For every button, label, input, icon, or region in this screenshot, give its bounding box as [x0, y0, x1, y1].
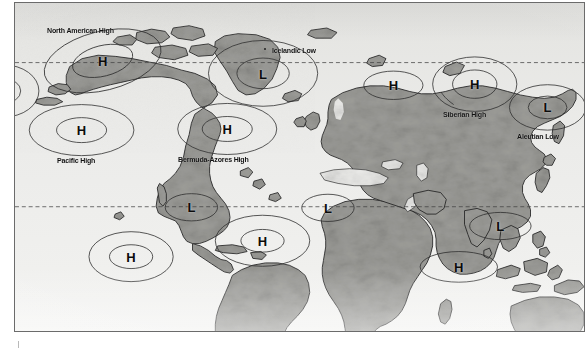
pressure-glyph-pacific-high: H: [77, 123, 86, 138]
pressure-glyph-african-low: L: [324, 200, 332, 215]
label-aleutian-low: Aleutian Low: [517, 132, 559, 141]
pressure-glyph-bermuda-azores-high: H: [223, 122, 232, 137]
label-north-american-high: North American High: [47, 26, 114, 35]
label-siberian-high: Siberian High: [443, 110, 486, 119]
label-icelandic-low: Icelandic Low: [272, 46, 316, 55]
pressure-glyph-south-pacific-high: H: [126, 249, 135, 264]
pressure-glyph-south-american-low: L: [187, 200, 195, 215]
land-australia: [510, 297, 584, 331]
pressure-glyph-siberian-high: H: [470, 77, 479, 92]
pressure-glyph-south-atlantic-high: H: [258, 233, 267, 248]
page-edge-tick: [18, 341, 19, 348]
label-bermuda-azores-high: Bermuda-Azores High: [178, 155, 249, 164]
pressure-glyph-australian-low: L: [496, 219, 504, 234]
pressure-glyph-eurasian-high: H: [389, 78, 398, 93]
pressure-glyph-aleutian-low: L: [544, 100, 552, 115]
label-pacific-high: Pacific High: [57, 156, 95, 165]
pressure-glyph-icelandic-low: L: [259, 66, 267, 81]
pressure-glyph-south-indian-high: H: [454, 259, 463, 274]
map-frame: H L H H L H H L L L H H H North American…: [14, 2, 585, 332]
pressure-cells-figure: H L H H L H H L L L H H H North American…: [0, 0, 587, 356]
pressure-glyph-north-american-high: H: [98, 53, 107, 68]
icelandic-low-marker-dot: [264, 48, 266, 50]
